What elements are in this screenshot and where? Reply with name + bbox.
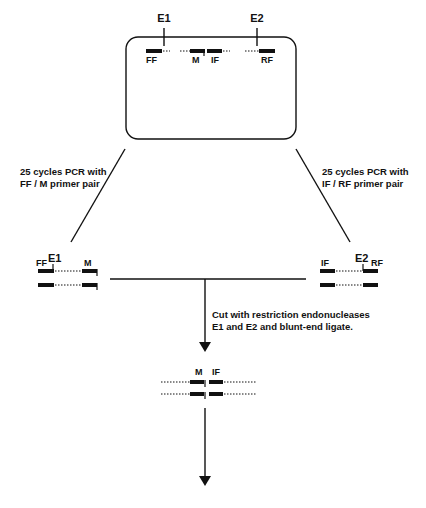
ligation-caption-line1: Cut with restriction endonucleases (212, 309, 370, 321)
ligated-top-bar-if (209, 380, 223, 384)
pcr-deletion-diagram: E1 E2 FF M IF RF E1 FF M E2 IF RF M IF (0, 0, 426, 508)
ligation-caption: Cut with restriction endonucleases E1 an… (212, 309, 370, 333)
right-branch-caption: 25 cycles PCR with IF / RF primer pair (322, 166, 409, 190)
site-label-e1: E1 (157, 12, 170, 24)
primer-if-bar (207, 49, 222, 53)
right-strand-top-bar-if (320, 269, 335, 273)
ligated-label-m: M (195, 367, 203, 377)
left-primer-label-ff: FF (36, 258, 47, 268)
ligation-caption-line2: E1 and E2 and blunt-end ligate. (212, 321, 370, 333)
right-primer-label-rf: RF (371, 258, 383, 268)
primer-label-ff: FF (146, 55, 157, 65)
left-branch-line (71, 149, 125, 242)
left-strand-bottom-bar-ff (38, 283, 54, 287)
primer-ff-bar (146, 49, 162, 53)
arrow-2-head (199, 476, 211, 486)
primer-m-bar (190, 49, 205, 53)
right-caption-line2: IF / RF primer pair (322, 178, 409, 190)
right-strand-bottom-bar-if (320, 283, 335, 287)
right-caption-line1: 25 cycles PCR with (322, 166, 409, 178)
right-strand-bottom-bar-rf (363, 283, 378, 287)
primer-label-m: M (192, 55, 200, 65)
left-strand-top-bar-ff (38, 269, 54, 273)
arrow-1-head (199, 342, 211, 352)
right-strand-top-bar-rf (363, 269, 378, 273)
left-caption-line1: 25 cycles PCR with (20, 166, 107, 178)
ligated-label-if: IF (212, 367, 221, 377)
left-caption-line2: FF / M primer pair (20, 178, 107, 190)
left-primer-label-m: M (84, 258, 92, 268)
primer-rf-bar (259, 49, 275, 53)
left-site-label: E1 (48, 252, 61, 264)
left-strand-bottom-bar-m (82, 283, 97, 287)
site-label-e2: E2 (250, 12, 263, 24)
right-site-label: E2 (355, 252, 368, 264)
left-branch-caption: 25 cycles PCR with FF / M primer pair (20, 166, 107, 190)
right-primer-label-if: IF (321, 258, 330, 268)
left-strand-top-bar-m (82, 269, 97, 273)
ligated-bottom-bar-m (190, 392, 204, 396)
ligated-top-bar-m (190, 380, 204, 384)
ligated-bottom-bar-if (209, 392, 223, 396)
right-branch-line (296, 149, 350, 242)
primer-label-if: IF (211, 55, 220, 65)
primer-label-rf: RF (261, 55, 273, 65)
